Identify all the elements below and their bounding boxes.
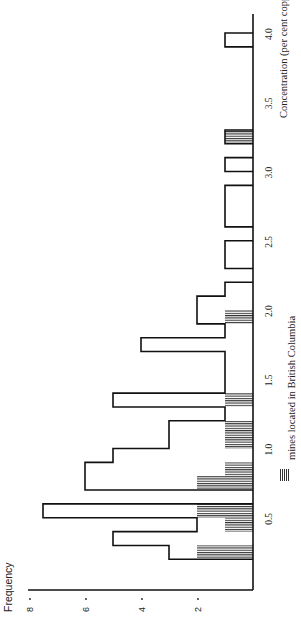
bc-bar: [197, 476, 253, 490]
frequency-tick-mark: [85, 598, 87, 600]
chart-canvas: 24680.51.01.52.02.53.03.54.0 Frequency C…: [0, 0, 301, 620]
concentration-tick-label: 2.0: [264, 305, 274, 317]
concentration-tick-label: 3.5: [264, 97, 274, 109]
bc-bar: [197, 504, 253, 518]
concentration-tick-label: 1.0: [264, 443, 274, 455]
x-axis-label: Concentration (per cent copper): [278, 0, 290, 118]
concentration-tick-label: 0.5: [264, 513, 274, 525]
bc-bar: [225, 435, 253, 449]
histogram-bar-group: [225, 241, 253, 269]
bc-bar: [225, 421, 253, 435]
legend-swatch: [280, 469, 290, 481]
concentration-tick-label: 1.5: [264, 374, 274, 386]
frequency-tick-label: 6: [81, 607, 91, 612]
bc-bar: [225, 393, 253, 407]
y-axis-label: Frequency: [2, 562, 14, 612]
concentration-tick-label: 4.0: [264, 28, 274, 40]
concentration-tick-label: 3.0: [264, 166, 274, 178]
bc-bar: [225, 310, 253, 324]
frequency-tick-mark: [141, 598, 143, 600]
legend-label: mines located in British Columbia: [286, 316, 297, 460]
frequency-tick-label: 2: [193, 607, 203, 612]
frequency-tick-mark: [197, 598, 199, 600]
bc-bar: [225, 130, 253, 144]
frequency-tick-label: 8: [25, 607, 35, 612]
frequency-tick-mark: [29, 598, 31, 600]
histogram-chart: 24680.51.01.52.02.53.03.54.0 Frequency C…: [0, 0, 301, 620]
frequency-tick-label: 4: [137, 607, 147, 612]
concentration-tick-label: 2.5: [264, 236, 274, 248]
histogram-bar-group: [225, 158, 253, 172]
histogram-bar-group: [225, 185, 253, 227]
histogram-bar-group: [225, 33, 253, 47]
bc-bar: [225, 462, 253, 476]
bc-bar: [197, 545, 253, 559]
bc-bar: [225, 518, 253, 532]
